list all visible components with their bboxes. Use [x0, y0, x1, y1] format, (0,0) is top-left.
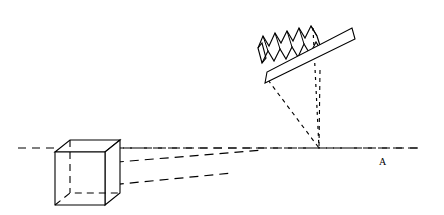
- axis-point-a-label: A: [379, 156, 387, 167]
- diagram-canvas: A: [0, 0, 444, 215]
- cone-edge-left: [268, 80, 319, 148]
- cone-edge-right: [319, 70, 320, 148]
- box-front-face: [55, 152, 105, 205]
- optics-diagram: A: [0, 0, 444, 215]
- rectangular-box: [55, 140, 120, 205]
- mirror-plank: [265, 28, 355, 83]
- pleat-front-zigzag: [258, 26, 317, 48]
- pleat-right-top-edge: [311, 26, 317, 36]
- ray-group-from-box: [70, 148, 420, 189]
- box-right-face: [105, 140, 120, 205]
- mirror-surface: [265, 28, 355, 83]
- reflected-beam-cone: [268, 70, 320, 148]
